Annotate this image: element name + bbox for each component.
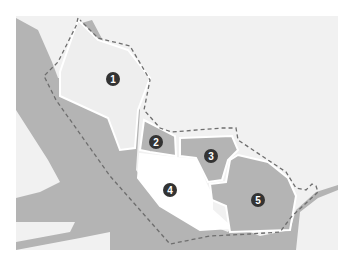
zone-3-label: 3 [208,151,214,162]
zone-2-marker[interactable]: 2 [149,135,163,149]
zone-3-marker[interactable]: 3 [204,149,218,163]
zone-5-label: 5 [255,195,261,206]
zone-5-marker[interactable]: 5 [251,193,265,207]
zone-4-label: 4 [167,185,173,196]
zone-map: 1 2 3 4 5 [0,0,350,267]
zone-2-label: 2 [153,137,159,148]
zone-1-label: 1 [110,74,116,85]
zone-4-marker[interactable]: 4 [163,183,177,197]
zone-1-marker[interactable]: 1 [106,72,120,86]
